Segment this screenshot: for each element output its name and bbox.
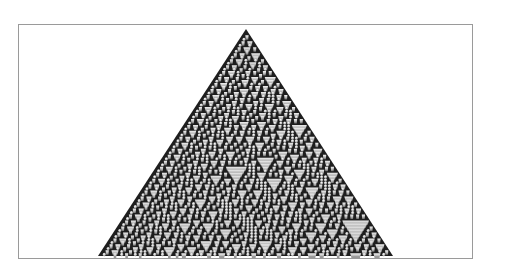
automaton-cells [98, 29, 393, 258]
cellular-automaton-triangle [0, 0, 505, 278]
